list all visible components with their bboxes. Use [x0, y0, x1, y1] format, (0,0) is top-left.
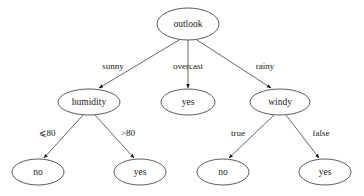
- tree-node-humidity[interactable]: [58, 89, 120, 115]
- tree-node-outlook[interactable]: [157, 8, 219, 40]
- tree-edge: [229, 115, 274, 158]
- tree-edge: [99, 40, 179, 88]
- tree-edge: [197, 40, 271, 88]
- tree-edge: [95, 115, 134, 158]
- tree-node-yes_4[interactable]: [299, 159, 351, 185]
- diagram-canvas-svg: [0, 0, 364, 196]
- tree-node-yes_2[interactable]: [114, 159, 166, 185]
- tree-node-yes_mid[interactable]: [161, 89, 215, 115]
- decision-tree-diagram: sunnyovercastrainy⩽80>80truefalseoutlook…: [0, 0, 364, 196]
- tree-node-no_3[interactable]: [197, 159, 249, 185]
- tree-edge: [286, 115, 319, 158]
- tree-node-windy[interactable]: [250, 89, 310, 115]
- tree-node-no_1[interactable]: [12, 159, 64, 185]
- tree-edge: [44, 115, 83, 158]
- nodes-layer: [12, 8, 351, 185]
